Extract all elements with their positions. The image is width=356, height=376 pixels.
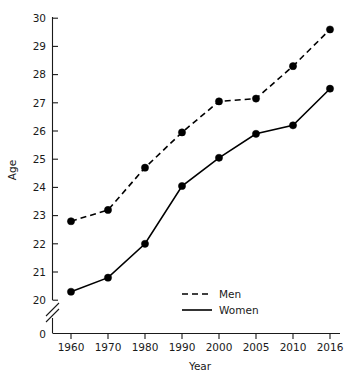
x-axis-ticks xyxy=(71,334,330,340)
chart-plot-area: 30 29 28 27 26 25 24 23 22 21 20 0 Age xyxy=(0,0,356,376)
x-tick-label-1980: 1980 xyxy=(132,341,159,353)
data-point-men-1980 xyxy=(141,164,148,171)
data-point-men-2000 xyxy=(215,98,222,105)
data-point-men-2005 xyxy=(252,95,259,102)
data-point-men-1970 xyxy=(104,206,111,213)
x-tick-label-2016: 2016 xyxy=(317,341,344,353)
y-axis-ticks xyxy=(53,18,59,300)
x-axis-title: Year xyxy=(188,360,212,372)
y-tick-label-28: 28 xyxy=(33,68,46,80)
chart-legend: Men Women xyxy=(182,288,259,316)
legend-label-women: Women xyxy=(219,304,259,316)
data-point-women-2016 xyxy=(326,85,333,92)
x-tick-label-2000: 2000 xyxy=(206,341,233,353)
x-tick-label-1970: 1970 xyxy=(95,341,122,353)
y-axis-title: Age xyxy=(6,160,18,180)
data-point-men-1990 xyxy=(178,129,185,136)
y-tick-label-27: 27 xyxy=(33,97,46,109)
series-line-women xyxy=(71,89,330,292)
data-point-women-1970 xyxy=(104,274,111,281)
data-point-men-1960 xyxy=(67,218,74,225)
data-point-women-1960 xyxy=(67,288,74,295)
data-point-men-2016 xyxy=(326,26,333,33)
y-tick-label-22: 22 xyxy=(33,238,46,250)
data-point-women-2010 xyxy=(289,122,296,129)
x-tick-label-1960: 1960 xyxy=(58,341,85,353)
y-tick-label-21: 21 xyxy=(33,266,46,278)
x-tick-label-1990: 1990 xyxy=(169,341,196,353)
y-tick-label-20: 20 xyxy=(33,294,46,306)
age-at-first-marriage-line-chart: 30 29 28 27 26 25 24 23 22 21 20 0 Age xyxy=(0,0,356,376)
data-point-women-2000 xyxy=(215,154,222,161)
data-point-women-1980 xyxy=(141,240,148,247)
x-tick-label-2010: 2010 xyxy=(280,341,307,353)
y-tick-label-23: 23 xyxy=(33,209,46,221)
y-tick-label-26: 26 xyxy=(33,125,47,137)
legend-label-men: Men xyxy=(219,288,241,300)
data-point-women-2005 xyxy=(252,130,259,137)
y-axis-tick-labels: 30 29 28 27 26 25 24 23 22 21 20 0 xyxy=(33,12,47,340)
y-tick-label-origin: 0 xyxy=(39,328,46,340)
y-tick-label-25: 25 xyxy=(33,153,46,165)
x-tick-label-2005: 2005 xyxy=(243,341,270,353)
y-tick-label-24: 24 xyxy=(33,181,47,193)
data-point-men-2010 xyxy=(289,63,296,70)
y-tick-label-29: 29 xyxy=(33,40,46,52)
x-axis-tick-labels: 1960 1970 1980 1990 2000 2005 2010 2016 xyxy=(58,341,344,353)
y-tick-label-30: 30 xyxy=(33,12,46,24)
data-point-women-1990 xyxy=(178,182,185,189)
